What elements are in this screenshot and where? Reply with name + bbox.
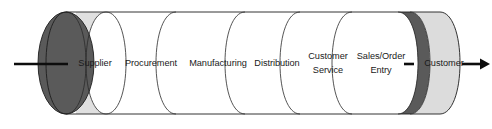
supply-chain-pipeline-diagram: Supplier Procurement Manufacturing Distr… [0,0,492,129]
output-arrow [462,59,490,70]
label-customer-service-line1: Customer [308,51,347,61]
label-customer-service-line2: Service [313,65,343,75]
label-procurement: Procurement [125,58,178,68]
label-sales-order-line2: Entry [370,65,392,75]
label-distribution: Distribution [254,58,299,68]
output-arrow-head [480,59,490,70]
label-customer: Customer [424,58,463,68]
label-sales-order-line1: Sales/Order [357,51,405,61]
label-manufacturing: Manufacturing [189,58,247,68]
label-supplier: Supplier [78,58,111,68]
pipeline-svg-canvas: Supplier Procurement Manufacturing Distr… [0,0,492,129]
